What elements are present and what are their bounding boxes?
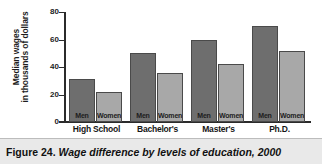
y-axis-tick-mark [59, 12, 65, 13]
y-axis-tick: 60 [0, 40, 59, 41]
x-axis-category-label: Ph.D. [249, 124, 310, 134]
y-axis-tick: 0 [0, 122, 59, 123]
y-axis-tick-label: 20 [39, 90, 59, 99]
bar-series-label: Men [131, 112, 155, 119]
x-axis-category-label: High School [66, 124, 127, 134]
figure-caption: Figure 24. Wage difference by levels of … [0, 146, 281, 158]
bar-series-label: Men [70, 112, 94, 119]
bar-women[interactable]: Women [157, 73, 183, 123]
y-axis-title-line2: in thousands of dollars [21, 11, 30, 102]
bar-women[interactable]: Women [279, 51, 305, 123]
bar-men[interactable]: Men [252, 26, 278, 122]
bar-series-label: Women [280, 112, 304, 119]
figure-container: Median wages in thousands of dollars 020… [0, 0, 322, 164]
x-axis-category-label: Bachelor's [127, 124, 188, 134]
figure-caption-band: Figure 24. Wage difference by levels of … [0, 138, 322, 164]
y-axis-tick-mark [59, 40, 65, 41]
bar-series-label: Women [97, 112, 121, 119]
y-axis-tick-label: 80 [39, 7, 59, 16]
y-axis-tick: 80 [0, 12, 59, 13]
y-axis-tick-label: 60 [39, 35, 59, 44]
bar-men[interactable]: Men [130, 53, 156, 122]
bar-chart: Median wages in thousands of dollars 020… [0, 0, 322, 138]
figure-caption-title: Wage difference by levels of education, … [59, 146, 282, 158]
y-axis-tick: 40 [0, 67, 59, 68]
y-axis-tick-mark [59, 122, 65, 123]
bar-men[interactable]: Men [191, 40, 217, 123]
y-axis-tick-mark [59, 67, 65, 68]
x-axis-category-label: Master's [188, 124, 249, 134]
bar-series-label: Women [219, 112, 243, 119]
y-axis-tick-label: 0 [39, 117, 59, 126]
bar-series-label: Women [158, 112, 182, 119]
bar-group: MenWomen [191, 12, 244, 122]
bar-group: MenWomen [69, 12, 122, 122]
figure-caption-label: Figure 24. [6, 146, 56, 158]
y-axis-tick: 20 [0, 95, 59, 96]
bar-series-label: Men [253, 112, 277, 119]
plot-area: MenWomenMenWomenMenWomenMenWomen [66, 12, 310, 122]
bar-men[interactable]: Men [69, 79, 95, 122]
y-axis-tick-mark [59, 95, 65, 96]
bar-group: MenWomen [252, 12, 305, 122]
y-axis-tick-label: 40 [39, 62, 59, 71]
bar-women[interactable]: Women [218, 64, 244, 122]
bar-series-label: Men [192, 112, 216, 119]
bar-group: MenWomen [130, 12, 183, 122]
bar-women[interactable]: Women [96, 92, 122, 122]
